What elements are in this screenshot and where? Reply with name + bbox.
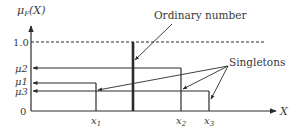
y-tick-one: 1.0 (13, 37, 29, 48)
singletons-pointer-x2 (183, 66, 228, 89)
fuzzy-singleton-diagram: μF(X) 1.0 μ2 μ1 μ3 0 x1 x2 x3 X Ordinary… (0, 0, 297, 133)
y-tick-zero: 0 (20, 106, 26, 117)
x-axis-label: X (279, 105, 289, 118)
singletons-label: Singletons (229, 56, 285, 68)
singletons-pointer-x1 (98, 66, 228, 90)
y-axis-label: μF(X) (17, 4, 45, 18)
y-tick-mu2: μ2 (15, 63, 28, 74)
ordinary-number-label: Ordinary number (154, 9, 247, 21)
y-tick-mu3: μ3 (15, 86, 28, 97)
singletons-pointer-x3 (211, 66, 228, 99)
x-tick-x3: x3 (204, 115, 215, 128)
x-tick-x2: x2 (176, 115, 187, 128)
x-tick-x1: x1 (91, 115, 101, 128)
